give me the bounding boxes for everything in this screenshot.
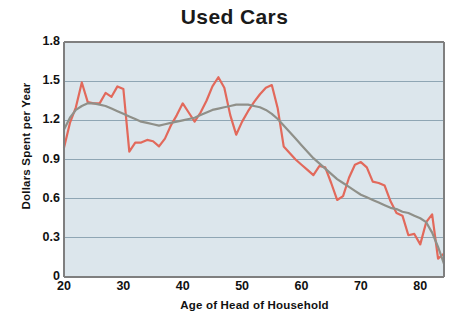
plot-area [0,0,469,324]
chart-figure: Used Cars Dollars Spent per Year Age of … [0,0,469,324]
